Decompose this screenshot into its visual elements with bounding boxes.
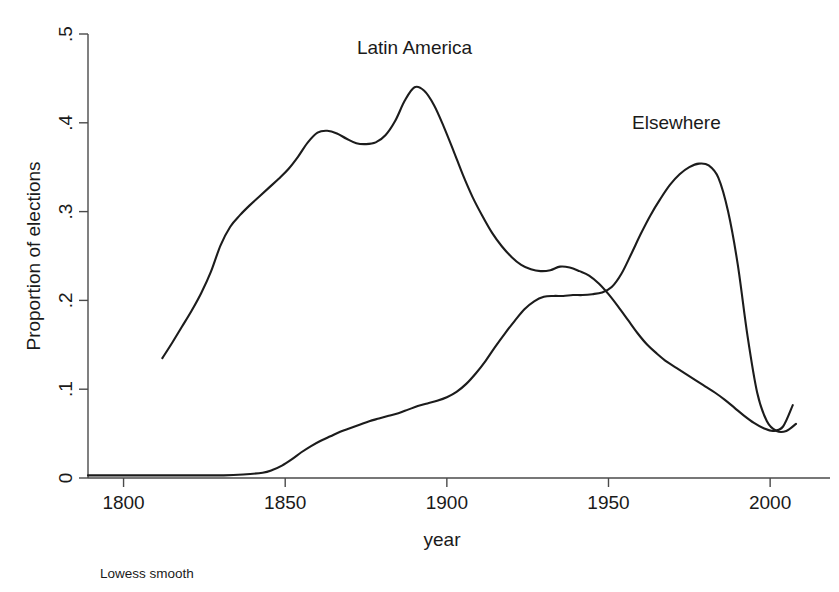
y-axis-tick-labels: 0.1.2.3.4.5 <box>55 26 76 483</box>
chart-figure: 0.1.2.3.4.5 18001850190019502000 Proport… <box>0 0 839 592</box>
series-line-elsewhere <box>88 163 796 475</box>
x-tick-label-3: 1950 <box>587 492 629 513</box>
chart-note: Lowess smooth <box>100 566 194 581</box>
y-tick-label-3: .3 <box>55 204 76 220</box>
page-bleed-text <box>150 0 710 5</box>
series-line-latin-america <box>162 87 792 431</box>
y-tick-label-5: .5 <box>55 26 76 42</box>
y-tick-label-2: .2 <box>55 292 76 308</box>
x-tick-label-4: 2000 <box>749 492 791 513</box>
x-axis-title: year <box>424 529 462 550</box>
y-tick-label-0: 0 <box>55 473 76 484</box>
x-axis-tick-labels: 18001850190019502000 <box>102 492 791 513</box>
lowess-line-chart: 0.1.2.3.4.5 18001850190019502000 Proport… <box>0 0 839 592</box>
x-tick-label-2: 1900 <box>426 492 468 513</box>
series-label-elsewhere: Elsewhere <box>632 112 721 133</box>
series-label-latin-america: Latin America <box>357 37 473 58</box>
y-tick-label-4: .4 <box>55 114 76 130</box>
y-tick-label-1: .1 <box>55 381 76 397</box>
y-axis-ticks <box>79 34 88 478</box>
y-axis-title: Proportion of elections <box>23 161 44 350</box>
series-annotations: Latin AmericaElsewhere <box>357 37 721 133</box>
x-tick-label-0: 1800 <box>102 492 144 513</box>
x-tick-label-1: 1850 <box>264 492 306 513</box>
x-axis-ticks <box>124 478 771 487</box>
series-lines <box>88 87 796 476</box>
